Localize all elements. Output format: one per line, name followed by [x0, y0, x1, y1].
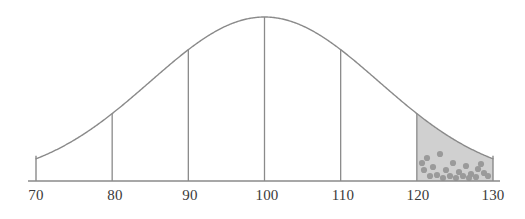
axis-tick-label-100: 100: [255, 187, 278, 204]
stipple-dot: [453, 175, 459, 181]
axis-tick-label-120: 120: [406, 187, 429, 204]
stipple-dot: [450, 160, 456, 166]
axis-tick-label-130: 130: [481, 187, 504, 204]
axis-tick-label-90: 90: [182, 187, 197, 204]
stipple-dot: [437, 151, 443, 157]
axis-tick-label-110: 110: [332, 187, 355, 204]
stipple-dot: [424, 155, 430, 161]
axis-tick-label-80: 80: [107, 187, 122, 204]
stipple-dot: [485, 173, 491, 179]
stipple-dot: [460, 173, 466, 179]
stipple-dot: [466, 175, 472, 181]
stipple-dot: [430, 164, 436, 170]
ordinate-lines: [112, 17, 417, 181]
stipple-dot: [473, 174, 479, 180]
stipple-dot: [443, 167, 449, 173]
stipple-dot: [463, 163, 469, 169]
stipple-dot: [478, 161, 484, 167]
stipple-dot: [419, 160, 425, 166]
stipple-dot: [421, 167, 427, 173]
stipple-dot: [427, 173, 433, 179]
stipple-dot: [434, 172, 440, 178]
normal-distribution-figure: 708090100110120130: [0, 0, 525, 219]
stipple-dot: [447, 173, 453, 179]
right-tail-shaded-area: [417, 114, 493, 182]
stipple-dot: [440, 175, 446, 181]
axis-tick-label-70: 70: [28, 187, 43, 204]
